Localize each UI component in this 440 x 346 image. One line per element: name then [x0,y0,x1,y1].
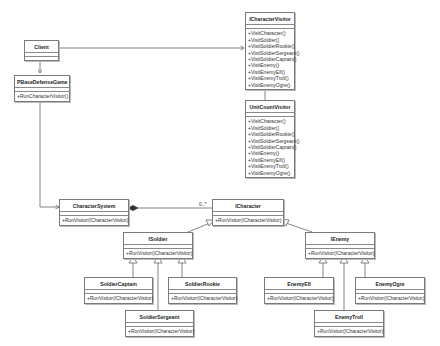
class-name: IEnemy [306,233,374,245]
class-client[interactable]: Client [24,40,59,61]
class-name: CharacterSystem [60,200,128,212]
operations-compartment: +RunVisitor(ICharacterVisitor) [126,327,193,335]
class-icharactervisitor[interactable]: ICharacterVisitor +VisitCharacter() +Vis… [245,12,295,90]
class-isoldier[interactable]: ISoldier +RunVisitor(ICharacterVisitor) [123,232,193,259]
class-unitcountvisitor[interactable]: UnitCountVisitor +VisitCharacter() +Visi… [245,100,295,178]
class-name: SoldierCaptain [85,278,152,290]
class-name: EnemyOgre [356,278,424,290]
class-enemyogre[interactable]: EnemyOgre +RunVisitor(ICharacterVisitor) [355,277,425,304]
operation: +VisitEnemyOgre() [248,82,292,88]
multiplicity-label: 0..* [199,201,207,207]
class-name: Client [25,41,58,53]
operations-compartment: +VisitCharacter() +VisitSoldier() +Visit… [246,29,294,89]
operation: +RunVisitor(ICharacterVisitor) [267,295,331,301]
operations-compartment: +RunVisitor(ICharacterVisitor) [306,249,374,257]
class-ienemy[interactable]: IEnemy +RunVisitor(ICharacterVisitor) [305,232,375,259]
class-soldiercaptain[interactable]: SoldierCaptain +RunVisitor(ICharacterVis… [84,277,153,304]
operations-compartment: +RunVisitor(ICharacterVisitor) [85,294,152,302]
class-name: ICharacter [213,200,283,212]
operation: +VisitEnemyTroll() [248,163,292,169]
operations-compartment: +RunVisitor(ICharacterVisitor) [213,216,283,224]
operations-compartment: +RunVisitor(ICharacterVisitor) [265,294,333,302]
class-name: PBaseDefenseGame [15,76,69,88]
operations-compartment: +RunVisitor(ICharacterVisitor) [315,327,383,335]
class-pbasedefensegame[interactable]: PBaseDefenseGame +RunCharacterVisitor() [14,75,70,102]
class-soldiersergeant[interactable]: SoldierSergeant +RunVisitor(ICharacterVi… [125,310,194,337]
operations-compartment: +RunVisitor(ICharacterVisitor) [124,249,192,257]
class-soldierrookie[interactable]: SoldierRookie +RunVisitor(ICharacterVisi… [168,277,237,304]
class-name: ICharacterVisitor [246,13,294,25]
class-name: UnitCountVisitor [246,101,294,113]
class-name: SoldierRookie [169,278,236,290]
operations-compartment: +RunVisitor(ICharacterVisitor) [169,294,236,302]
operations-compartment: +RunVisitor(ICharacterVisitor) [356,294,424,302]
class-name: EnemyTroll [315,311,383,323]
operation: +VisitEnemyTroll() [248,75,292,81]
class-icharacter[interactable]: ICharacter +RunVisitor(ICharacterVisitor… [212,199,284,226]
operation: +VisitCharacter() [248,30,292,36]
class-name: ISoldier [124,233,192,245]
uml-class-diagram: Client PBaseDefenseGame +RunCharacterVis… [0,0,440,346]
operation: +RunCharacterVisitor() [17,93,67,99]
operation: +RunVisitor(ICharacterVisitor) [171,295,234,301]
operation: +VisitCharacter() [248,118,292,124]
operations-compartment: +VisitCharacter() +VisitSoldier() +Visit… [246,117,294,177]
class-name: SoldierSergeant [126,311,193,323]
operation: +RunVisitor(ICharacterVisitor) [308,250,372,256]
operations-compartment: +RunCharacterVisitor() [15,92,69,100]
operation: +VisitSoldierRookie() [248,43,292,49]
class-charactersystem[interactable]: CharacterSystem +RunVisitor(ICharacterVi… [59,199,129,226]
operation: +RunVisitor(ICharacterVisitor) [128,328,191,334]
operation: +VisitSoldierRookie() [248,131,292,137]
class-enemytroll[interactable]: EnemyTroll +RunVisitor(ICharacterVisitor… [314,310,384,337]
class-name: EnemyElf [265,278,333,290]
operation: +RunVisitor(ICharacterVisitor) [62,217,126,223]
operation: +RunVisitor(ICharacterVisitor) [317,328,381,334]
operation: +RunVisitor(ICharacterVisitor) [358,295,422,301]
operations-compartment: +RunVisitor(ICharacterVisitor) [60,216,128,224]
operation: +VisitEnemyOgre() [248,170,292,176]
operation: +RunVisitor(ICharacterVisitor) [126,250,190,256]
operation: +RunVisitor(ICharacterVisitor) [215,217,281,223]
operations-compartment [25,57,58,60]
class-enemyelf[interactable]: EnemyElf +RunVisitor(ICharacterVisitor) [264,277,334,304]
operation: +RunVisitor(ICharacterVisitor) [87,295,150,301]
